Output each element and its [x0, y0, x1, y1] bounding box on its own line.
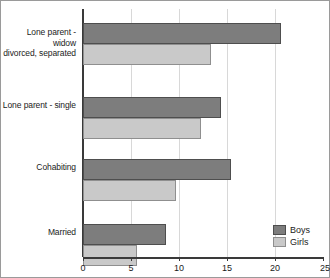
bar-boys-lone-parent-single [83, 97, 221, 118]
legend-swatch-boys-icon [273, 225, 286, 235]
bar-chart: Lone parent - widow divorced, separated … [0, 0, 330, 278]
bar-boys-cohabiting [83, 159, 231, 180]
x-tick-mark-15 [227, 257, 228, 261]
legend-swatch-girls-icon [273, 237, 286, 247]
x-tick-label-0: 0 [80, 263, 85, 273]
x-tick-label-10: 10 [174, 263, 184, 273]
x-tick-label-25: 25 [320, 263, 330, 273]
legend-item-girls: Girls [273, 236, 327, 247]
legend-label-boys: Boys [290, 225, 310, 235]
gridline-15 [227, 9, 228, 257]
bar-boys-married [83, 224, 166, 245]
x-tick-label-5: 5 [128, 263, 133, 273]
x-tick-label-15: 15 [222, 263, 232, 273]
bar-girls-cohabiting [83, 180, 176, 201]
x-tick-mark-5 [131, 257, 132, 261]
bar-girls-lone-parent-single [83, 118, 201, 139]
x-axis-line [83, 257, 324, 259]
category-label-cohabiting: Cohabiting [2, 162, 76, 173]
category-label-line-1: Lone parent - widow [27, 27, 76, 48]
legend: Boys Girls [273, 224, 327, 248]
category-label-lone-parent-single: Lone parent - single [2, 100, 76, 111]
x-tick-mark-20 [275, 257, 276, 261]
x-tick-mark-0 [83, 257, 84, 261]
category-label-lone-parent-widow: Lone parent - widow divorced, separated [2, 27, 76, 59]
bar-girls-lone-parent-widow-divorced-separated [83, 44, 211, 65]
legend-item-boys: Boys [273, 224, 327, 235]
category-label-line-2: divorced, separated [3, 48, 76, 58]
x-tick-label-20: 20 [270, 263, 280, 273]
legend-label-girls: Girls [290, 237, 309, 247]
gridline-20 [275, 9, 276, 257]
category-label-married: Married [2, 227, 76, 238]
x-tick-mark-25 [323, 257, 324, 261]
x-tick-mark-10 [179, 257, 180, 261]
category-axis-labels: Lone parent - widow divorced, separated … [1, 1, 81, 257]
plot-area [83, 9, 323, 257]
bar-boys-lone-parent-widow-divorced-separated [83, 23, 281, 44]
